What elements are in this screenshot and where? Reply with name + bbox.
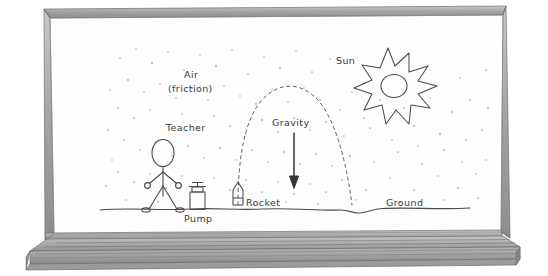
teacher-label: Teacher — [165, 122, 206, 133]
rocket-label: Rocket — [246, 197, 280, 208]
sun-label: Sun — [336, 55, 355, 66]
ground-label: Ground — [386, 197, 423, 208]
pump-label: Pump — [184, 213, 212, 224]
gravity-label: Gravity — [272, 117, 310, 128]
air-label: Air — [184, 69, 198, 80]
whiteboard-drawing: Sun Air (friction) Teacher — [0, 0, 548, 276]
whiteboard-scene: Sun Air (friction) Teacher — [0, 0, 548, 276]
air-friction-label: (friction) — [168, 83, 213, 94]
whiteboard-tray — [26, 236, 520, 270]
